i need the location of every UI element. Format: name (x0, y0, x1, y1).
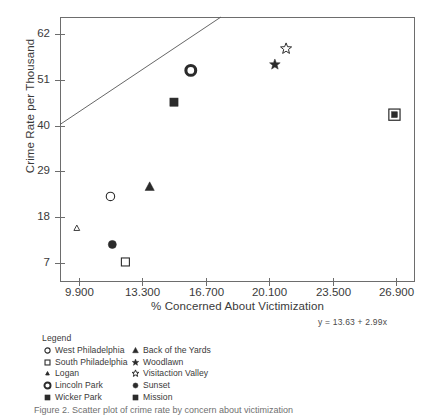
data-point (145, 182, 154, 191)
legend-entry: South Philadelphia (42, 357, 130, 369)
legend-entry-label: Back of the Yards (143, 345, 211, 356)
legend-entry-label: South Philadelphia (55, 357, 128, 368)
filled-circle-icon (130, 380, 141, 391)
data-point (389, 109, 400, 120)
legend-entry-label: Lincoln Park (55, 380, 103, 391)
filled-square-icon (42, 392, 53, 403)
ring-circle-icon (42, 380, 53, 391)
legend-entry-label: Woodlawn (143, 357, 183, 368)
legend: Legend West PhiladelphiaBack of the Yard… (42, 333, 292, 403)
data-point (74, 225, 80, 230)
open-star-icon (130, 368, 141, 379)
legend-entry: Logan (42, 368, 130, 380)
figure-caption: Figure 2. Scatter plot of crime rate by … (34, 405, 414, 415)
small-filled-triangle-icon (42, 368, 53, 379)
legend-entry: Woodlawn (130, 357, 250, 369)
data-point (108, 240, 116, 248)
legend-entry: Sunset (130, 380, 250, 392)
data-point (170, 98, 178, 106)
legend-entry: Lincoln Park (42, 380, 130, 392)
filled-star-icon (130, 357, 141, 368)
legend-entry-label: Mission (143, 392, 172, 403)
legend-entry-label: Wicker Park (55, 392, 102, 403)
filled-square-icon (130, 392, 141, 403)
legend-title: Legend (42, 333, 292, 343)
legend-entry-label: Visitaction Valley (143, 368, 208, 379)
legend-entry: Wicker Park (42, 391, 130, 403)
open-square-icon (42, 357, 53, 368)
legend-entry: Back of the Yards (130, 345, 250, 357)
data-point (270, 59, 281, 69)
legend-entry: West Philadelphia (42, 345, 130, 357)
data-point (121, 258, 129, 266)
legend-entries: West PhiladelphiaBack of the YardsSouth … (42, 345, 292, 403)
legend-entry-label: Sunset (143, 380, 170, 391)
data-point (281, 43, 292, 53)
regression-equation-label: y = 13.63 + 2.99x (318, 317, 387, 327)
open-circle-icon (42, 345, 53, 356)
legend-entry-label: Logan (55, 368, 79, 379)
legend-entry: Visitaction Valley (130, 368, 250, 380)
legend-entry: Mission (130, 391, 250, 403)
filled-triangle-icon (130, 345, 141, 356)
legend-entry-label: West Philadelphia (55, 345, 124, 356)
data-point (186, 66, 196, 76)
data-point (106, 192, 114, 200)
